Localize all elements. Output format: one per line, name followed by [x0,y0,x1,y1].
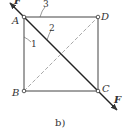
node-label-c: C [102,83,110,94]
member-number-1: 1 [31,39,37,49]
joint-c-icon [96,89,100,93]
truss-diagram: A D B C F F 3 2 1 b) [0,0,125,139]
member-number-2: 2 [49,23,55,33]
force-label-lower: F [113,94,122,105]
figure-caption: b) [55,117,65,128]
joint-b-icon [22,89,26,93]
node-label-d: D [100,11,109,22]
joint-a-icon [22,15,26,19]
node-label-a: A [11,15,19,26]
force-label-upper: F [13,0,22,6]
leader-1 [24,37,31,42]
node-label-b: B [11,87,19,98]
member-number-3: 3 [43,0,49,9]
joint-d-icon [96,15,100,19]
